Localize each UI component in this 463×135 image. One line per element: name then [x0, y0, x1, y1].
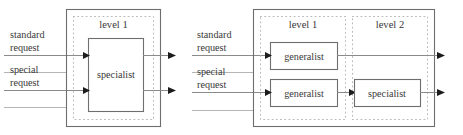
arrow-head-out-1	[437, 52, 445, 59]
node-label: generalist	[284, 88, 324, 99]
input-label-special-line2: request	[10, 77, 40, 88]
level-label-1: level 1	[289, 19, 318, 30]
diagram-canvas: level 1 specialist standard request spec…	[0, 0, 463, 135]
diagram-svg: level 1 specialist standard request spec…	[0, 0, 463, 135]
input-label-standard-line1: standard	[197, 29, 232, 40]
input-label-standard-line2: request	[197, 42, 227, 53]
diagram-two-level: level 1 level 2 generalist generalist sp…	[192, 10, 445, 127]
input-label-special-line1: special	[197, 66, 225, 77]
input-label-standard-line1: standard	[10, 29, 45, 40]
input-label-standard-line2: request	[10, 42, 40, 53]
node-label: generalist	[284, 51, 324, 62]
input-label-special-line1: special	[10, 64, 38, 75]
node-label: specialist	[368, 88, 406, 99]
diagram-single-level: level 1 specialist standard request spec…	[4, 10, 176, 127]
input-label-special-line2: request	[197, 79, 227, 90]
arrow-head-out-1	[168, 52, 176, 59]
level-label-2: level 2	[376, 19, 405, 30]
arrow-head-out-2	[168, 87, 176, 94]
arrow-head-out-2	[437, 89, 445, 96]
node-label: specialist	[97, 69, 135, 80]
level-label: level 1	[99, 19, 128, 30]
